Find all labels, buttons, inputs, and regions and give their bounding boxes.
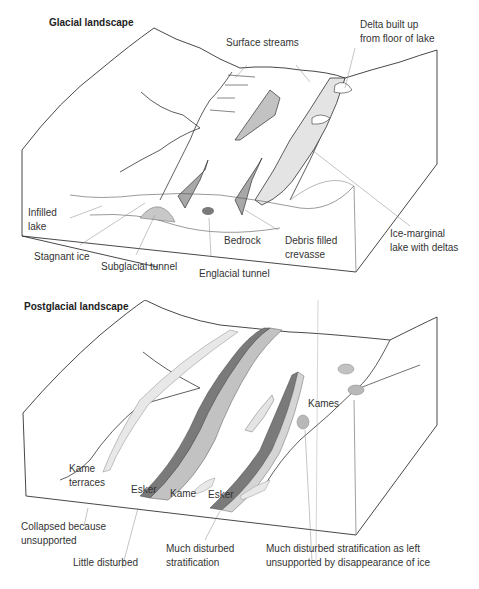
glacial-landscape-title: Glacial landscape	[49, 17, 134, 28]
label-collapsed: Collapsed because unsupported	[21, 520, 106, 548]
label-debris-crevasse: Debris filled crevasse	[285, 234, 337, 262]
label-much-disturbed-unsupported: Much disturbed stratification as left un…	[266, 542, 430, 570]
postglacial-landscape-figure: Postglacial landscape Kames Kame terrace…	[0, 300, 479, 589]
label-subglacial-tunnel: Subglacial tunnel	[101, 260, 177, 274]
glacial-landscape-figure: Glacial landscape Surface streams Delta …	[0, 0, 479, 300]
postglacial-landscape-title: Postglacial landscape	[24, 301, 129, 312]
label-delta: Delta built up from floor of lake	[360, 18, 434, 46]
label-ice-marginal-lake: Ice-marginal lake with deltas	[390, 227, 458, 255]
label-infilled-lake: Infilled lake	[28, 206, 57, 234]
label-little-disturbed: Little disturbed	[73, 556, 138, 570]
label-stagnant-ice: Stagnant ice	[34, 250, 90, 264]
label-kame: Kame	[170, 487, 196, 501]
label-englacial-tunnel: Englacial tunnel	[199, 267, 270, 281]
label-surface-streams: Surface streams	[226, 36, 299, 50]
label-esker-right: Esker	[208, 488, 234, 502]
label-much-disturbed: Much disturbed stratification	[166, 542, 234, 570]
label-esker-left: Esker	[131, 483, 157, 497]
label-kames: Kames	[308, 397, 339, 411]
label-bedrock: Bedrock	[224, 234, 261, 248]
label-kame-terraces: Kame terraces	[69, 462, 105, 490]
